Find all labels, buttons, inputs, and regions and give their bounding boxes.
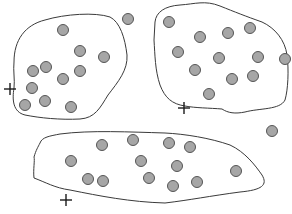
data-point [66,102,77,113]
data-point [136,156,147,167]
data-point [204,89,215,100]
cross-marker-icon [178,102,190,114]
data-point [28,66,39,77]
data-point [75,66,86,77]
data-point [41,62,52,73]
data-point [245,23,256,34]
data-point [164,17,175,28]
data-point [168,181,179,192]
data-point [83,174,94,185]
data-point [227,74,238,85]
cluster-diagram [0,0,292,214]
data-point [144,173,155,184]
data-point [280,54,291,65]
data-point [58,74,69,85]
data-point [185,142,196,153]
data-point [128,135,139,146]
data-point [99,52,110,63]
data-point [192,177,203,188]
data-point [172,161,183,172]
data-points [20,17,291,192]
data-point [97,140,108,151]
data-point [20,100,31,111]
data-point [248,71,259,82]
data-point [190,65,201,76]
data-point [223,28,234,39]
data-point [173,47,184,58]
cross-marker-icon [60,194,72,206]
data-point [27,83,38,94]
outlier-point [267,126,278,137]
data-point [98,176,109,187]
data-point [40,96,51,107]
cluster-boundary-bottom [34,132,264,203]
outlier-point [123,14,134,25]
data-point [75,46,86,57]
data-point [164,138,175,149]
data-point [195,32,206,43]
data-point [214,53,225,64]
data-point [66,156,77,167]
data-point [58,25,69,36]
data-point [253,52,264,63]
data-point [231,166,242,177]
